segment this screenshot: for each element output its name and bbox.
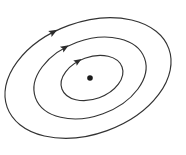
figure-background xyxy=(0,0,186,155)
phase-portrait-canvas xyxy=(0,0,186,155)
equilibrium-point-dot xyxy=(87,75,93,81)
phase-portrait-figure xyxy=(0,0,186,155)
